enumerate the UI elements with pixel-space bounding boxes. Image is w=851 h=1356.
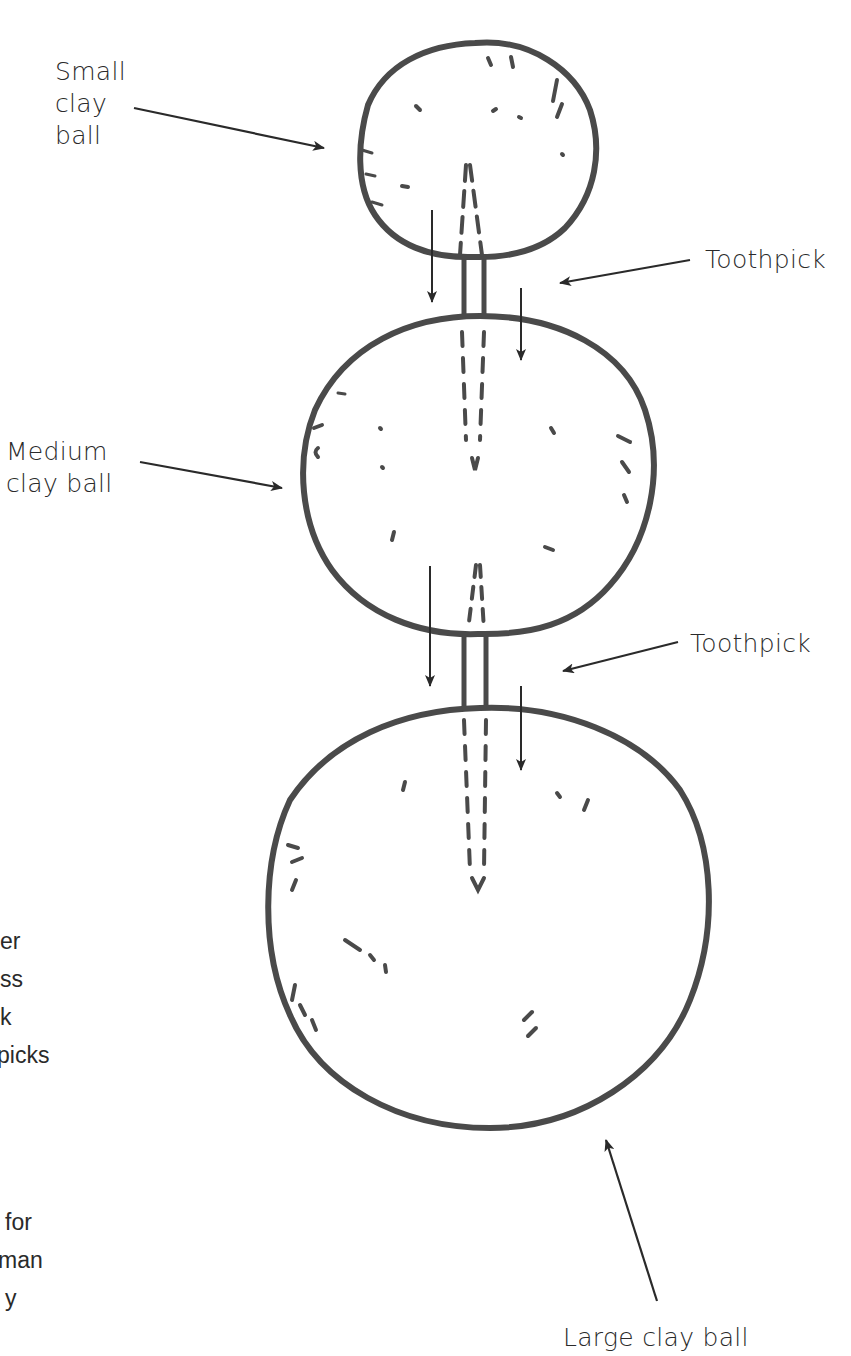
toothpick-top (464, 255, 484, 318)
arrow-medium-ball-icon (140, 462, 282, 488)
label-small-clay-ball: Small clay ball (55, 56, 126, 152)
cropped-text-block-1-visible: er ss k picks (0, 922, 49, 1074)
label-toothpick-bottom: Toothpick (690, 628, 811, 660)
small-clay-ball (360, 42, 596, 257)
label-toothpick-top: Toothpick (705, 244, 826, 276)
label-medium-clay-ball: Medium clay ball (6, 436, 113, 500)
arrow-toothpick-top-icon (560, 260, 690, 283)
cropped-text-block-2: for man y (5, 1203, 43, 1317)
large-clay-ball (268, 708, 709, 1128)
label-large-clay-ball: Large clay ball (563, 1322, 749, 1354)
medium-clay-ball (303, 316, 654, 634)
push-arrows (430, 210, 521, 770)
clay-snowman-diagram (0, 0, 851, 1356)
toothpick-bottom (464, 634, 486, 708)
label-arrows (134, 108, 690, 1301)
arrow-small-ball-icon (134, 108, 324, 148)
arrow-large-ball-icon (606, 1140, 657, 1301)
arrow-toothpick-bottom-icon (563, 642, 678, 671)
